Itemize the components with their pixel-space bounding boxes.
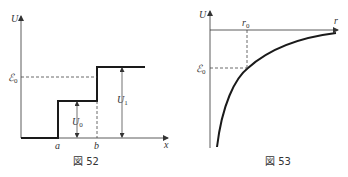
potential-curve — [217, 33, 336, 147]
r0-label: r0 — [242, 17, 250, 30]
figure-52-step-potential: U x a b ℰ0 U0 U1 図 52 — [8, 13, 169, 167]
y-axis-label: U — [11, 13, 19, 24]
figure-53-coulomb-potential: U r r0 ℰ0 図 53 — [196, 9, 338, 167]
figure-caption: 図 53 — [265, 156, 291, 167]
energy-label: ℰ0 — [8, 72, 18, 85]
x-axis-label: x — [163, 139, 169, 150]
energy-label: ℰ0 — [196, 63, 206, 76]
u0-label: U0 — [72, 116, 83, 129]
figure-caption: 図 52 — [73, 156, 99, 167]
u1-label: U1 — [117, 94, 128, 107]
tick-a: a — [55, 140, 60, 151]
y-axis-label: U — [199, 9, 207, 20]
x-axis-label: r — [334, 15, 338, 26]
tick-b: b — [94, 140, 99, 151]
